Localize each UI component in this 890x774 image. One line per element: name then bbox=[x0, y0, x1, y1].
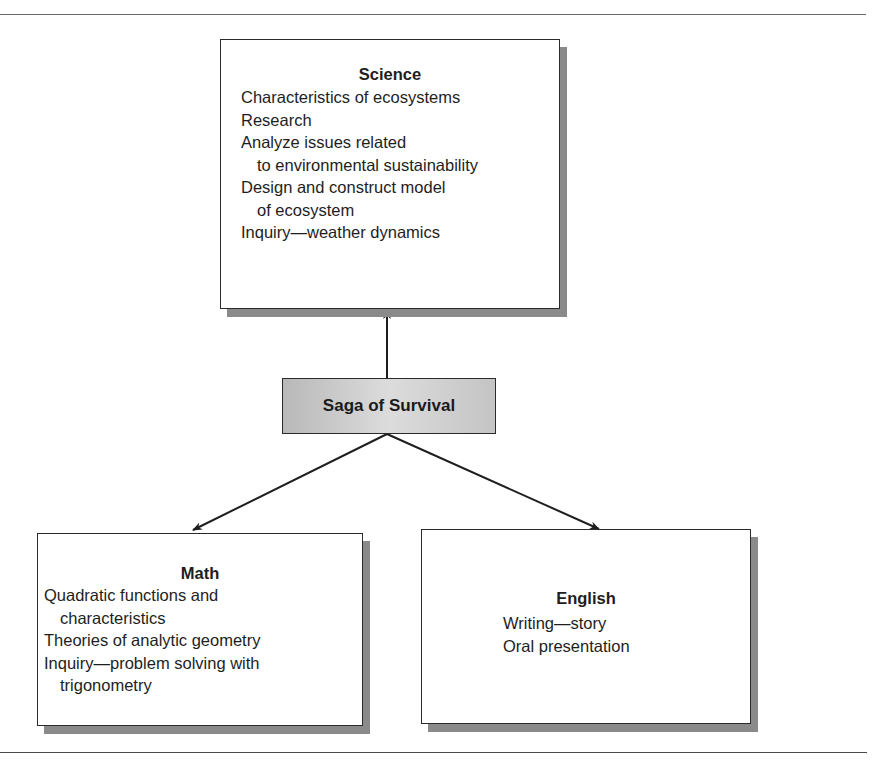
science-title: Science bbox=[221, 63, 559, 85]
science-item: Inquiry—weather dynamics bbox=[241, 221, 559, 244]
center-node-saga-of-survival: Saga of Survival bbox=[282, 378, 496, 434]
science-item: Design and construct model bbox=[241, 176, 559, 199]
science-item: Characteristics of ecosystems bbox=[241, 86, 559, 109]
math-box: Math Quadratic functions and characteris… bbox=[37, 533, 363, 726]
math-title: Math bbox=[38, 562, 362, 584]
science-item: Analyze issues related bbox=[241, 131, 559, 154]
math-item: trigonometry bbox=[44, 674, 362, 697]
top-rule bbox=[0, 14, 866, 15]
math-item: Theories of analytic geometry bbox=[44, 629, 362, 652]
science-box: Science Characteristics of ecosystems Re… bbox=[220, 39, 560, 309]
english-box: English Writing—story Oral presentation bbox=[421, 529, 751, 724]
math-item: Quadratic functions and bbox=[44, 584, 362, 607]
science-item: of ecosystem bbox=[241, 199, 559, 222]
math-item: Inquiry—problem solving with bbox=[44, 652, 362, 675]
english-title: English bbox=[422, 586, 750, 610]
bottom-rule bbox=[0, 752, 867, 753]
arrow-to-english bbox=[387, 434, 599, 529]
science-item: Research bbox=[241, 109, 559, 132]
english-item: Writing—story bbox=[503, 612, 750, 635]
arrow-to-math bbox=[193, 434, 387, 530]
math-item: characteristics bbox=[44, 607, 362, 630]
english-item: Oral presentation bbox=[503, 635, 750, 658]
science-item: to environmental sustainability bbox=[241, 154, 559, 177]
